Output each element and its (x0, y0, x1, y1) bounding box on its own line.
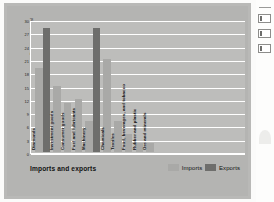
legend-label-imports: Imports (182, 165, 203, 171)
screenshot-root: Percentage of total 036912151821242730 D… (0, 0, 274, 202)
side-panel-box-2-marker (260, 31, 262, 36)
side-panel-box-1-marker (260, 16, 262, 21)
legend-swatch-exports (205, 164, 216, 171)
y-axis-tick-label: 9 (27, 112, 29, 117)
category-label: Chemicals (100, 127, 105, 150)
bar-group: Diamonds (35, 21, 50, 152)
side-panel-rule (259, 7, 271, 8)
category-label: Diamonds (31, 128, 36, 150)
category-label: Textiles (110, 133, 115, 150)
category-label: Ore and minerals (142, 113, 147, 150)
side-panel-box-3-marker (260, 46, 262, 51)
y-axis-tick-label: 18 (25, 72, 29, 77)
y-axis-tick-label: 27 (25, 32, 29, 37)
category-label: Rubber and plastic (132, 109, 137, 150)
bar-imports[interactable] (146, 143, 154, 152)
y-axis-tick-label: 15 (25, 85, 29, 90)
category-label: Investment goods (49, 111, 54, 150)
gridline (31, 154, 245, 155)
y-axis-tick-label: 6 (27, 125, 29, 130)
chart-footer: Imports and exports Imports Exports (30, 162, 240, 180)
bar-group: Ore and minerals (146, 21, 154, 152)
side-panel-box-3[interactable] (258, 44, 271, 53)
category-label: Consumer goods (60, 112, 65, 150)
y-axis-tick-label: 24 (25, 45, 29, 50)
legend-swatch-imports (168, 164, 179, 171)
chart-legend: Imports Exports (168, 164, 240, 171)
legend-item-imports[interactable]: Imports (168, 164, 202, 171)
side-panel (256, 0, 274, 202)
category-label: Food, beverages, and tobacco (121, 84, 126, 150)
bar-imports[interactable] (85, 121, 93, 152)
y-axis-tick-label: 0 (27, 152, 29, 157)
chart-card: Percentage of total 036912151821242730 D… (4, 3, 251, 199)
plot-area-wrapper: Percentage of total 036912151821242730 D… (30, 21, 245, 154)
chart-card-inner: Percentage of total 036912151821242730 D… (7, 6, 248, 196)
bar-imports[interactable] (35, 68, 43, 152)
category-label: Machinery (81, 127, 86, 150)
category-label: Fuel and lubricants (71, 108, 76, 150)
y-axis-tick-label: 30 (25, 19, 29, 24)
legend-label-exports: Exports (219, 165, 240, 171)
side-panel-box-1[interactable] (258, 14, 271, 23)
side-panel-shape (259, 130, 271, 144)
bar-group-container: DiamondsInvestment goodsConsumer goodsFu… (32, 21, 245, 152)
legend-item-exports[interactable]: Exports (205, 164, 240, 171)
side-panel-box-2[interactable] (258, 29, 271, 38)
chart-title: Imports and exports (30, 165, 96, 172)
y-axis-tick-label: 21 (25, 58, 29, 63)
bar-group: Machinery (85, 21, 100, 152)
y-axis-tick-label: 12 (25, 98, 29, 103)
plot-area: 036912151821242730 DiamondsInvestment go… (30, 21, 245, 154)
y-axis-tick-label: 3 (27, 138, 29, 143)
